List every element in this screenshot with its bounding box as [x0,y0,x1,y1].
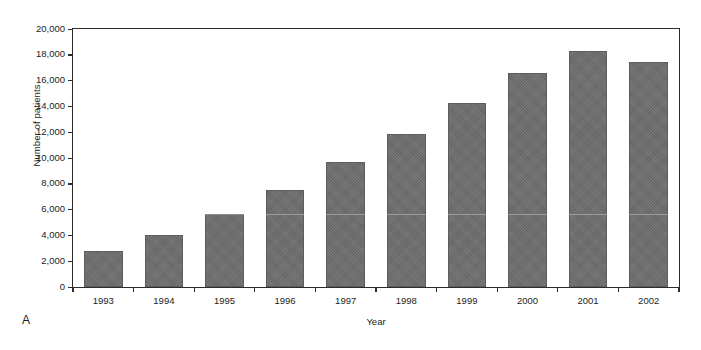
y-tick-mark [68,80,73,81]
y-tick-mark [68,29,73,30]
x-tick-mark [618,287,619,292]
x-tick-mark [133,287,134,292]
x-tick-label: 1999 [437,295,497,306]
y-tick-mark [68,261,73,262]
y-tick-label: 14,000 [36,100,65,111]
x-tick-label: 2000 [497,295,557,306]
y-tick-label: 20,000 [36,23,65,34]
x-tick-mark [557,287,558,292]
x-tick-label: 1996 [255,295,315,306]
x-tick-label: 1993 [73,295,133,306]
x-tick-mark [72,287,73,292]
bar-2000 [508,73,547,287]
y-tick-mark [68,54,73,55]
x-tick-label: 2001 [558,295,618,306]
x-tick-label: 1994 [134,295,194,306]
y-tick-mark [68,183,73,184]
x-tick-label: 2002 [619,295,679,306]
bar-1994 [145,235,184,287]
y-tick-label: 16,000 [36,74,65,85]
bar-1999 [448,103,487,287]
x-tick-mark [375,287,376,292]
x-axis-title: Year [72,316,680,327]
bar-1998 [387,134,426,287]
x-tick-mark [497,287,498,292]
y-tick-label: 2,000 [41,255,65,266]
x-tick-mark [678,287,679,292]
y-tick-label: 6,000 [41,203,65,214]
x-tick-label: 1995 [194,295,254,306]
y-tick-label: 4,000 [41,229,65,240]
bar-2001 [569,51,608,287]
x-tick-mark [436,287,437,292]
y-tick-label: 10,000 [36,152,65,163]
y-tick-label: 12,000 [36,126,65,137]
bar-1993 [84,251,123,287]
panel-letter: A [22,313,30,327]
y-tick-label: 0 [60,281,65,292]
figure-panel-a: Number of patients 02,0004,0006,0008,000… [0,0,701,350]
y-tick-label: 18,000 [36,48,65,59]
x-tick-label: 1997 [316,295,376,306]
bar-1995 [205,214,244,287]
x-tick-mark [194,287,195,292]
y-tick-mark [68,158,73,159]
y-tick-mark [68,106,73,107]
bar-1996 [266,190,305,287]
plot-area: 02,0004,0006,0008,00010,00012,00014,0001… [72,28,680,288]
x-tick-label: 1998 [376,295,436,306]
y-tick-mark [68,235,73,236]
bar-2002 [629,62,668,287]
bar-1997 [326,162,365,287]
x-tick-mark [254,287,255,292]
x-tick-mark [315,287,316,292]
y-tick-label: 8,000 [41,177,65,188]
y-tick-mark [68,209,73,210]
y-tick-mark [68,132,73,133]
